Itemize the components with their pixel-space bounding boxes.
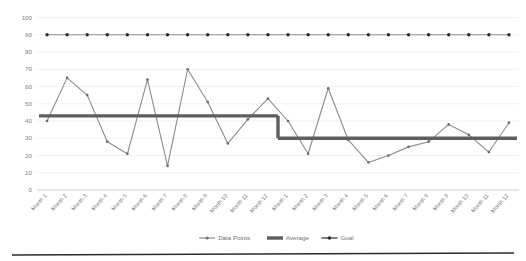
data-point-marker (467, 133, 470, 136)
data-point-marker (266, 33, 269, 36)
data-point-marker (487, 33, 490, 36)
y-tick-label: 10 (25, 169, 32, 176)
x-tick-label: Month 6 (371, 193, 389, 212)
x-tick-label: Month 3 (70, 193, 88, 212)
data-point-marker (267, 97, 270, 100)
y-tick-label: 40 (25, 117, 32, 124)
data-point-marker (447, 33, 450, 36)
y-tick-label: 50 (25, 100, 32, 107)
x-tick-labels: Month 1Month 2Month 3Month 4Month 5Month… (30, 193, 510, 214)
x-tick-label: Month 10 (449, 193, 469, 214)
x-tick-label: Month 5 (110, 193, 128, 212)
data-point-marker (86, 94, 89, 97)
chart-canvas: 0102030405060708090100Month 1Month 2Mont… (0, 0, 526, 261)
data-point-marker (508, 121, 511, 124)
x-tick-label: Month 11 (470, 193, 490, 214)
legend-item[interactable]: Data Points (199, 234, 250, 241)
legend-marker (328, 236, 332, 240)
y-tick-label: 100 (22, 14, 33, 21)
data-point-marker (347, 33, 350, 36)
x-tick-label: Month 9 (431, 193, 449, 212)
y-tick-label: 20 (25, 152, 32, 159)
data-point-marker (247, 118, 250, 121)
data-point-marker (327, 33, 330, 36)
data-point-marker (427, 140, 430, 143)
x-tick-label: Month 12 (249, 193, 269, 214)
line-chart: 0102030405060708090100Month 1Month 2Mont… (0, 0, 526, 261)
data-point-marker (447, 123, 450, 126)
y-gridlines: 0102030405060708090100 (22, 14, 519, 194)
y-tick-label: 90 (25, 31, 32, 38)
legend-label: Goal (340, 234, 353, 241)
data-point-marker (206, 33, 209, 36)
x-tick-label: Month 4 (331, 193, 349, 212)
x-tick-label: Month 5 (351, 193, 369, 212)
y-tick-label: 80 (25, 48, 32, 55)
x-tick-label: Month 7 (391, 193, 409, 212)
data-point-marker (106, 140, 109, 143)
data-point-marker (488, 151, 491, 154)
chart-legend: Data PointsAverageGoal (199, 234, 353, 241)
data-point-marker (226, 33, 229, 36)
data-point-marker (427, 33, 430, 36)
data-point-marker (226, 142, 229, 145)
bottom-rule (12, 253, 514, 255)
x-tick-label: Month 3 (311, 193, 329, 212)
data-point-marker (307, 152, 310, 155)
x-tick-label: Month 1 (271, 193, 289, 212)
data-point-marker (287, 120, 290, 123)
data-point-marker (186, 33, 189, 36)
x-tick-label: Month 12 (490, 193, 510, 214)
y-tick-label: 70 (25, 65, 32, 72)
data-point-marker (186, 68, 189, 71)
data-point-marker (166, 165, 169, 168)
data-point-marker (66, 77, 69, 80)
x-tick-label: Month 7 (150, 193, 168, 212)
legend-item[interactable]: Goal (321, 234, 353, 241)
data-point-marker (367, 161, 370, 164)
data-point-marker (146, 33, 149, 36)
data-point-marker (387, 33, 390, 36)
legend-label: Average (286, 234, 309, 241)
data-point-marker (246, 33, 249, 36)
x-tick-label: Month 10 (208, 193, 228, 214)
data-point-marker (387, 154, 390, 157)
data-point-marker (65, 33, 68, 36)
data-point-marker (327, 87, 330, 90)
legend-item[interactable]: Average (267, 234, 309, 241)
data-point-marker (286, 33, 289, 36)
data-point-marker (467, 33, 470, 36)
y-tick-label: 0 (29, 186, 33, 193)
data-point-marker (86, 33, 89, 36)
data-point-marker (126, 152, 129, 155)
data-point-marker (407, 146, 410, 149)
data-point-marker (306, 33, 309, 36)
legend-label: Data Points (218, 234, 250, 241)
x-tick-label: Month 4 (90, 193, 108, 212)
data-point-marker (126, 33, 129, 36)
data-point-marker (146, 78, 149, 81)
data-point-marker (46, 120, 49, 123)
x-tick-label: Month 2 (50, 193, 68, 212)
x-tick-label: Month 9 (190, 193, 208, 212)
x-tick-label: Month 1 (30, 193, 48, 212)
legend-marker (206, 237, 209, 240)
series-goal (45, 33, 510, 36)
data-point-marker (407, 33, 410, 36)
data-point-marker (206, 101, 209, 104)
data-point-marker (45, 33, 48, 36)
data-point-marker (507, 33, 510, 36)
y-tick-label: 30 (25, 134, 32, 141)
x-tick-label: Month 2 (291, 193, 309, 212)
data-point-marker (166, 33, 169, 36)
x-tick-label: Month 11 (229, 193, 249, 214)
x-tick-label: Month 8 (170, 193, 188, 212)
data-point-marker (106, 33, 109, 36)
x-tick-label: Month 6 (130, 193, 148, 212)
data-point-marker (367, 33, 370, 36)
x-tick-label: Month 8 (411, 193, 429, 212)
y-tick-label: 60 (25, 83, 32, 90)
